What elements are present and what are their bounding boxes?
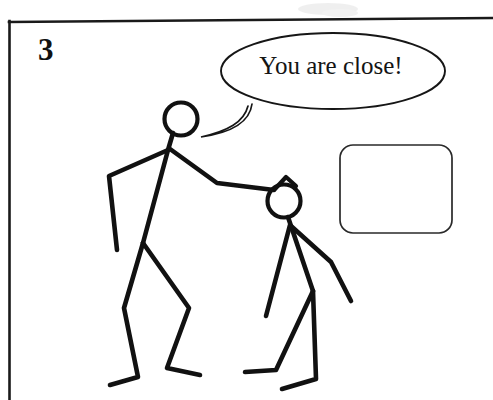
short-stick-figure: [245, 177, 351, 389]
tall-figure-left-leg: [110, 243, 143, 385]
tall-figure-right-arm: [170, 149, 274, 190]
tall-figure-right-leg: [143, 243, 200, 375]
panel-number: 3: [38, 34, 54, 65]
short-figure-right-arm: [291, 226, 351, 301]
tall-figure-head: [165, 103, 198, 136]
speech-bubble-tail: [201, 104, 252, 137]
speech-bubble-text: You are close!: [231, 52, 431, 80]
tall-figure-left-arm: [109, 150, 168, 250]
short-figure-head: [268, 185, 301, 218]
short-figure-right-leg: [282, 291, 316, 389]
scan-smudge: [298, 3, 358, 17]
panel-frame-top-border: [9, 18, 493, 22]
short-figure-left-arm: [266, 225, 290, 316]
short-figure-left-leg: [245, 291, 313, 372]
empty-rounded-box: [340, 145, 452, 233]
comic-panel: 3 You are close!: [0, 0, 493, 400]
tall-stick-figure: [109, 103, 274, 386]
